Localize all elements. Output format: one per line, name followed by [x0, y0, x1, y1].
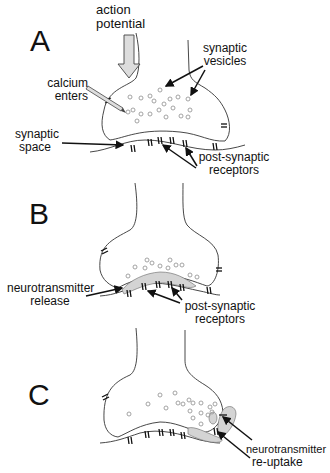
panel-c-vesicles — [127, 391, 217, 426]
panel-a-calcium-arrow — [86, 86, 126, 113]
panel-a-letter: A — [30, 24, 50, 58]
label-calcium-enters: calcium enters — [46, 77, 88, 103]
label-post-synaptic-receptors-a: post-synaptic receptors — [198, 151, 270, 177]
panel-a-vesicles — [126, 88, 192, 123]
label-neurotransmitter-reuptake: neurotransmitter re-uptake — [246, 443, 326, 469]
panel-c-terminal — [100, 328, 223, 443]
panel-b-pointer-lines — [86, 288, 182, 303]
panel-a-arrow-action — [118, 35, 140, 78]
label-action-potential: action potential — [96, 3, 145, 31]
panel-c-reuptake-cloud — [188, 407, 236, 443]
label-neurotransmitter-release: neurotransmitter release — [7, 282, 93, 308]
panel-c-letter: C — [28, 378, 50, 412]
label-synaptic-vesicles: synaptic vesicles — [201, 42, 249, 68]
label-synaptic-space: synaptic space — [15, 128, 59, 154]
panel-b-letter: B — [29, 197, 49, 231]
label-post-synaptic-receptors-b: post-synaptic receptors — [184, 300, 256, 326]
